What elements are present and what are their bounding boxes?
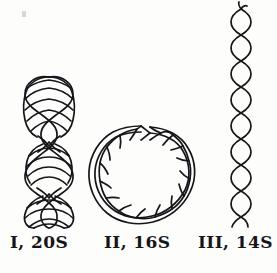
label-form-1: I, 20S — [10, 232, 68, 252]
figure-labels-row: I, 20S II, 16S III, 14S — [0, 232, 277, 262]
dna-form-1-supercoiled — [24, 77, 75, 228]
dna-form-3-linear-helix — [231, 2, 251, 227]
label-form-3: III, 14S — [198, 232, 273, 252]
dna-forms-figure: I, 20S II, 16S III, 14S — [0, 0, 277, 273]
dna-form-2-relaxed-circle — [89, 126, 195, 224]
label-form-2: II, 16S — [104, 232, 170, 252]
